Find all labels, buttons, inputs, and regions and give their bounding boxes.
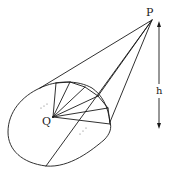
ellipsis-dots-left [41, 104, 48, 109]
center-point-q [52, 116, 54, 118]
label-p: P [146, 6, 154, 19]
height-arrow [157, 21, 161, 129]
ellipsis-dots-right [80, 128, 87, 135]
cone-base-curve [8, 88, 111, 166]
radius-line [53, 117, 110, 124]
radius-line [53, 96, 98, 117]
cone-diagram: P Q h [0, 0, 169, 175]
label-h: h [156, 85, 163, 96]
label-q: Q [42, 115, 51, 128]
arrow-down-icon [157, 123, 161, 129]
generator-line-left [40, 20, 152, 88]
arrow-up-icon [157, 21, 161, 27]
